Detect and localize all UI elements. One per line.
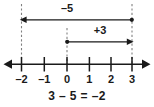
jump-arrow-minus-five-head	[20, 17, 27, 24]
jump-arrow-plus-three-start-dot	[65, 40, 69, 44]
equation-caption: 3 – 5 = –2	[48, 90, 106, 102]
axis-label-three: 3	[129, 74, 135, 85]
jump-arrow-plus-three	[65, 39, 134, 46]
jump-label-plus-three: +3	[94, 25, 107, 36]
jump-arrow-minus-five	[20, 17, 134, 24]
axis-label-zero: 0	[64, 74, 70, 85]
axis-arrowhead-left	[4, 60, 13, 69]
axis-label-minus-2: –2	[15, 74, 27, 85]
axis-label-one: 1	[86, 74, 92, 85]
number-line-axis	[4, 57, 151, 72]
axis-label-minus-1: –1	[38, 74, 50, 85]
jump-arrow-minus-five-start-dot	[130, 18, 134, 22]
axis-label-two: 2	[108, 74, 114, 85]
axis-arrowhead-right	[142, 60, 151, 69]
number-line-figure: –5 +3 –2 –1 0 1 2 3 3 – 5 = –2	[0, 0, 154, 107]
jump-arrow-plus-three-head	[127, 39, 134, 46]
jump-label-minus-five: –5	[61, 3, 73, 14]
